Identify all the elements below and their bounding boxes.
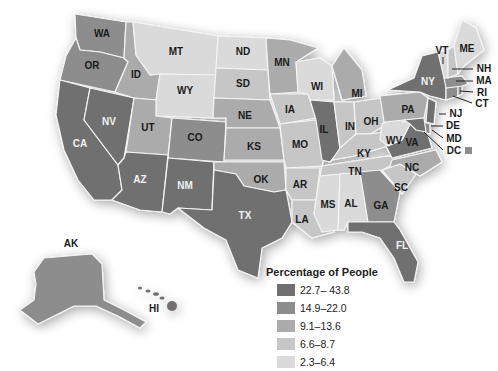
label-NY: NY xyxy=(421,76,435,87)
label-TX: TX xyxy=(239,210,252,221)
label-RI: RI xyxy=(477,87,487,98)
label-MN: MN xyxy=(274,57,290,68)
label-OR: OR xyxy=(85,60,101,71)
legend-label-5: 2.3–6.4 xyxy=(300,356,335,368)
label-MA: MA xyxy=(476,75,492,86)
label-FL: FL xyxy=(396,240,408,251)
label-HI: HI xyxy=(149,303,159,314)
label-DE: DE xyxy=(446,120,460,131)
label-MO: MO xyxy=(292,139,308,150)
legend-label-4: 6.6–8.7 xyxy=(300,338,335,350)
label-GA: GA xyxy=(374,200,389,211)
label-AK: AK xyxy=(64,238,79,249)
contiguous-us xyxy=(56,14,484,282)
label-AL: AL xyxy=(344,198,357,209)
legend-swatch-1 xyxy=(277,284,295,296)
legend-title: Percentage of People xyxy=(266,266,378,278)
label-DC: DC xyxy=(447,145,461,156)
legend-label-1: 22.7– 43.8 xyxy=(300,284,350,296)
state-AK[interactable] xyxy=(20,254,146,328)
label-ME: ME xyxy=(460,43,475,54)
label-LA: LA xyxy=(295,214,308,225)
label-NJ: NJ xyxy=(450,108,463,119)
label-ID: ID xyxy=(131,69,141,80)
label-NC: NC xyxy=(405,162,419,173)
label-VT: VT xyxy=(436,45,449,56)
label-SC: SC xyxy=(394,182,408,193)
label-CT: CT xyxy=(475,98,488,109)
label-CO: CO xyxy=(188,132,203,143)
label-NH: NH xyxy=(477,63,491,74)
label-MD: MD xyxy=(446,133,462,144)
leader-MD xyxy=(432,130,443,138)
label-WY: WY xyxy=(177,85,193,96)
label-VA: VA xyxy=(405,137,418,148)
legend-swatch-4 xyxy=(277,338,295,350)
legend-swatch-2 xyxy=(277,302,295,314)
label-IN: IN xyxy=(345,121,355,132)
label-AR: AR xyxy=(293,179,308,190)
label-CA: CA xyxy=(73,138,87,149)
alaska-hawaii xyxy=(20,254,177,328)
label-OK: OK xyxy=(254,174,270,185)
legend-swatch-5 xyxy=(277,356,295,368)
label-MT: MT xyxy=(169,46,183,57)
label-WV: WV xyxy=(386,135,402,146)
label-WA: WA xyxy=(94,28,110,39)
label-NE: NE xyxy=(238,110,252,121)
label-MI: MI xyxy=(351,88,362,99)
label-SD: SD xyxy=(236,78,250,89)
label-PA: PA xyxy=(401,104,414,115)
state-WY[interactable] xyxy=(156,74,216,118)
dc-swatch xyxy=(465,147,472,154)
label-TN: TN xyxy=(348,166,361,177)
legend-label-3: 9.1–13.6 xyxy=(300,320,341,332)
label-UT: UT xyxy=(141,122,154,133)
label-AZ: AZ xyxy=(133,174,146,185)
label-OH: OH xyxy=(364,116,379,127)
us-choropleth-map: WA OR CA NV ID MT WY UT CO AZ NM ND SD N… xyxy=(0,0,498,371)
leader-CT xyxy=(453,96,472,103)
label-IL: IL xyxy=(320,124,329,135)
label-NV: NV xyxy=(102,116,116,127)
label-ND: ND xyxy=(236,46,250,57)
legend-swatch-3 xyxy=(277,320,295,332)
label-NM: NM xyxy=(177,180,193,191)
label-WI: WI xyxy=(311,81,323,92)
label-KY: KY xyxy=(357,148,371,159)
label-KS: KS xyxy=(247,141,261,152)
legend-label-2: 14.9–22.0 xyxy=(300,302,347,314)
label-MS: MS xyxy=(321,199,336,210)
state-NJ[interactable] xyxy=(426,98,436,124)
label-IA: IA xyxy=(285,104,295,115)
legend: Percentage of People 22.7– 43.8 14.9–22.… xyxy=(266,266,378,368)
